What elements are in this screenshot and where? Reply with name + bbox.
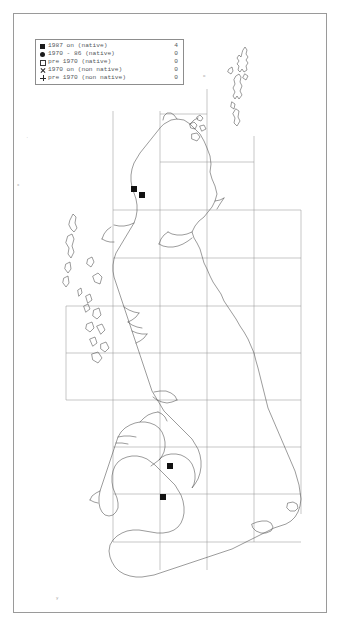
record-point xyxy=(160,494,166,500)
map-canvas: x y o . xyxy=(14,14,328,614)
stray-ticks: x y o . xyxy=(17,74,206,600)
cross-x-icon xyxy=(39,66,48,74)
filled-circle-icon xyxy=(39,50,48,58)
svg-text:o: o xyxy=(203,74,206,78)
plus-icon xyxy=(39,74,48,82)
coastline-outer-hebrides xyxy=(63,214,90,312)
legend-count: 0 xyxy=(174,58,178,66)
legend-count: 0 xyxy=(174,74,178,82)
figure-frame: x y o . 1987 on (native) 4 1970 - 86 (na… xyxy=(13,13,327,613)
record-point xyxy=(131,186,137,192)
legend-row: 1987 on (native) 4 xyxy=(39,42,180,50)
legend-row: pre 1970 (native) 0 xyxy=(39,58,180,66)
legend-row: pre 1970 (non native) 0 xyxy=(39,74,180,82)
coastline-mainland-britain xyxy=(99,119,301,577)
grid-lines xyxy=(66,89,301,570)
legend-label: 1970 - 86 (native) xyxy=(48,50,115,58)
svg-text:x: x xyxy=(17,183,20,187)
legend-row: 1970 on (non native) 0 xyxy=(39,66,180,74)
map-vector: x y o . xyxy=(14,14,326,612)
record-point xyxy=(139,192,145,198)
filled-square-icon xyxy=(39,42,48,50)
map-figure: x y o . 1987 on (native) 4 1970 - 86 (na… xyxy=(0,0,341,627)
legend-label: pre 1970 (native) xyxy=(48,58,111,66)
legend-count: 0 xyxy=(174,66,178,74)
legend-label: 1987 on (native) xyxy=(48,42,107,50)
legend: 1987 on (native) 4 1970 - 86 (native) 0 … xyxy=(35,39,184,85)
legend-count: 4 xyxy=(174,42,178,50)
svg-text:y: y xyxy=(56,596,59,600)
svg-text:.: . xyxy=(26,135,28,139)
coastline-orkney xyxy=(190,115,206,141)
coastline-inner-hebrides xyxy=(86,257,109,363)
coastline-shetland xyxy=(228,47,248,126)
legend-row: 1970 - 86 (native) 0 xyxy=(39,50,180,58)
legend-label: 1970 on (non native) xyxy=(48,66,122,74)
open-square-icon xyxy=(39,58,48,66)
legend-count: 0 xyxy=(174,50,178,58)
record-point xyxy=(167,463,173,469)
legend-label: pre 1970 (non native) xyxy=(48,74,126,82)
